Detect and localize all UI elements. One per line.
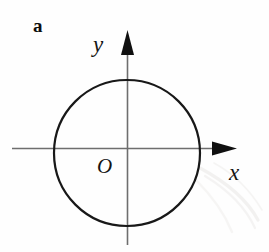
circle-diagram-graphic <box>0 0 269 252</box>
y-axis-arrowhead <box>121 30 134 55</box>
x-axis-label: x <box>229 161 239 184</box>
x-axis-arrowhead <box>212 142 237 156</box>
panel-letter-label: a <box>33 16 43 35</box>
figure-panel-a: a y x O <box>0 0 269 252</box>
origin-label: O <box>97 156 112 177</box>
y-axis-label: y <box>93 33 103 56</box>
